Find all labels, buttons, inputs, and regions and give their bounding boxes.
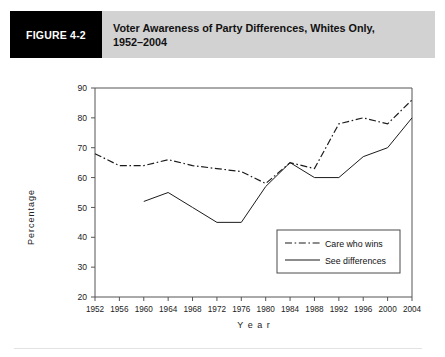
x-tick-label: 1952 xyxy=(86,305,105,314)
x-tick-label: 1976 xyxy=(232,305,251,314)
y-tick-label: 40 xyxy=(77,232,87,242)
x-tick-label: 1992 xyxy=(330,305,349,314)
x-tick-label: 1972 xyxy=(208,305,227,314)
chart-legend: Care who wins See differences xyxy=(277,230,400,273)
x-axis-ticks: 1952195619601964196819721976198019841988… xyxy=(86,297,422,314)
y-tick-label: 70 xyxy=(77,143,87,153)
figure-title-block: Voter Awareness of Party Differences, Wh… xyxy=(102,11,435,58)
y-axis-title: Percentage xyxy=(26,189,36,245)
figure-title-line-1: Voter Awareness of Party Differences, Wh… xyxy=(113,21,427,35)
legend-label-care-who-wins: Care who wins xyxy=(325,239,383,249)
series-care-who-wins xyxy=(95,100,412,184)
y-tick-label: 30 xyxy=(77,262,87,272)
x-tick-label: 1984 xyxy=(281,305,300,314)
figure-number-badge: FIGURE 4-2 xyxy=(10,11,102,58)
x-tick-label: 2000 xyxy=(379,305,398,314)
y-tick-label: 60 xyxy=(77,173,87,183)
figure-title-line-2: 1952–2004 xyxy=(113,35,427,49)
x-tick-label: 1980 xyxy=(257,305,276,314)
chart-container: 2030405060708090 19521956196019641968197… xyxy=(0,62,445,334)
x-tick-label: 1964 xyxy=(159,305,178,314)
x-axis-title: Y e a r xyxy=(237,320,270,330)
legend-box xyxy=(277,230,400,273)
x-tick-label: 1968 xyxy=(183,305,202,314)
y-tick-label: 20 xyxy=(77,292,87,302)
y-axis-ticks: 2030405060708090 xyxy=(77,83,95,302)
x-tick-label: 2004 xyxy=(403,305,422,314)
y-tick-label: 50 xyxy=(77,203,87,213)
figure-header: FIGURE 4-2 Voter Awareness of Party Diff… xyxy=(10,11,435,58)
line-chart: 2030405060708090 19521956196019641968197… xyxy=(0,62,445,334)
y-tick-label: 90 xyxy=(77,83,87,93)
series-see-differences xyxy=(144,118,412,223)
legend-label-see-differences: See differences xyxy=(325,256,387,266)
x-tick-label: 1956 xyxy=(110,305,129,314)
x-tick-label: 1996 xyxy=(354,305,373,314)
figure-number-label: FIGURE 4-2 xyxy=(26,29,86,41)
x-tick-label: 1988 xyxy=(305,305,324,314)
y-tick-label: 80 xyxy=(77,113,87,123)
x-tick-label: 1960 xyxy=(135,305,154,314)
page-bottom-rule xyxy=(14,348,422,349)
